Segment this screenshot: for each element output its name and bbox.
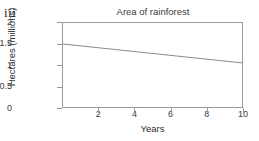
data-series-line [63, 44, 242, 63]
y-tick-label: 2 [0, 18, 12, 27]
x-tick-mark [134, 108, 135, 113]
x-axis-title: Years [62, 123, 243, 134]
y-tick-mark [57, 108, 62, 109]
x-tick-mark [98, 108, 99, 113]
y-tick-mark [57, 44, 62, 45]
y-tick-label: 0 [0, 104, 12, 113]
chart-figure: iii Area of rainforest Hectares (million… [0, 0, 259, 141]
chart-title: Area of rainforest [62, 6, 244, 17]
x-tick-mark [207, 108, 208, 113]
y-tick-mark [57, 65, 62, 66]
x-tick-mark [171, 108, 172, 113]
y-tick-mark [57, 22, 62, 23]
plot-canvas [63, 23, 242, 107]
y-tick-mark [57, 87, 62, 88]
y-tick-label: 1.5 [0, 39, 12, 48]
x-tick-mark [243, 108, 244, 113]
plot-area [62, 22, 243, 108]
y-tick-label: 1 [0, 61, 12, 70]
y-tick-label: 0.5 [0, 82, 12, 91]
